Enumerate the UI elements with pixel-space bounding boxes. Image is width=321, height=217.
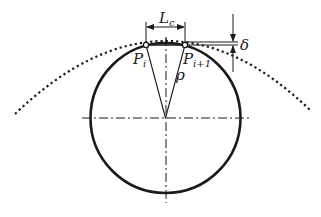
label-lc: Lc: [158, 9, 175, 28]
point-pi1-marker: [182, 42, 187, 47]
point-pi-marker: [143, 42, 148, 47]
label-pi1: Pi+1: [182, 50, 211, 69]
radius-line-left: [146, 45, 166, 118]
label-delta: δ: [240, 36, 249, 54]
label-rho: ρ: [175, 66, 185, 84]
chord-error-diagram: Lc Pi Pi+1 ρ δ: [0, 0, 321, 217]
label-pi: Pi: [132, 50, 146, 69]
dotted-contour-curve: [15, 41, 310, 114]
